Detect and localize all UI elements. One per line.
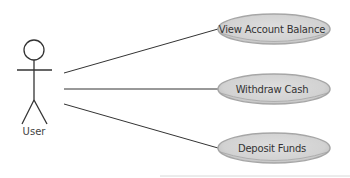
actor-left-leg <box>22 100 34 124</box>
association-deposit <box>64 104 218 148</box>
actor-user-figure <box>17 40 52 124</box>
use-case-label: Deposit Funds <box>238 143 306 154</box>
use-case-label: Withdraw Cash <box>236 84 309 95</box>
actor-right-leg <box>34 100 47 124</box>
actor-head <box>24 40 44 60</box>
association-view-balance <box>64 29 218 73</box>
use-case-label: View Account Balance <box>219 24 325 35</box>
actor-label: User <box>23 126 46 137</box>
